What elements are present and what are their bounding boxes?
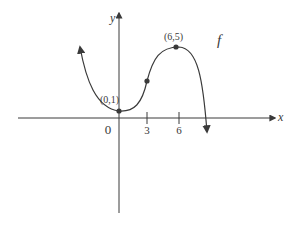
x-tick-label-3: 3 — [144, 124, 150, 136]
y-axis-label: y — [109, 11, 116, 25]
point-label-max: (6,5) — [164, 31, 183, 43]
point-label-min: (0,1) — [100, 94, 119, 106]
function-graph: x y 0 3 6 (0,1) (6,5) f — [0, 0, 293, 225]
x-tick-label-6: 6 — [176, 124, 182, 136]
function-curve — [80, 47, 207, 132]
point-inflection — [144, 78, 149, 83]
function-label: f — [217, 32, 223, 48]
point-max — [173, 44, 178, 49]
x-axis-label: x — [277, 110, 284, 124]
point-min — [116, 108, 121, 113]
x-tick-label-0: 0 — [105, 122, 112, 137]
